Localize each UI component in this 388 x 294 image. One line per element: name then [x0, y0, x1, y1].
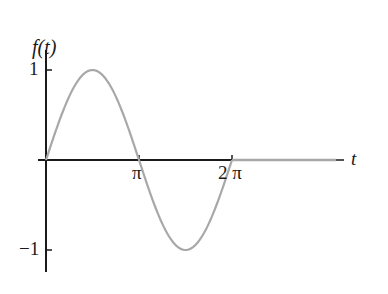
x-tick-label-2pi: 2 π	[218, 162, 242, 184]
plot-area	[0, 0, 388, 294]
y-axis-label: f(t)	[32, 36, 56, 59]
x-tick-label-pi: π	[132, 162, 142, 184]
x-axis-label: t	[351, 148, 356, 170]
y-tick-label-1: 1	[29, 58, 39, 80]
y-tick-label-neg1: −1	[19, 238, 39, 260]
